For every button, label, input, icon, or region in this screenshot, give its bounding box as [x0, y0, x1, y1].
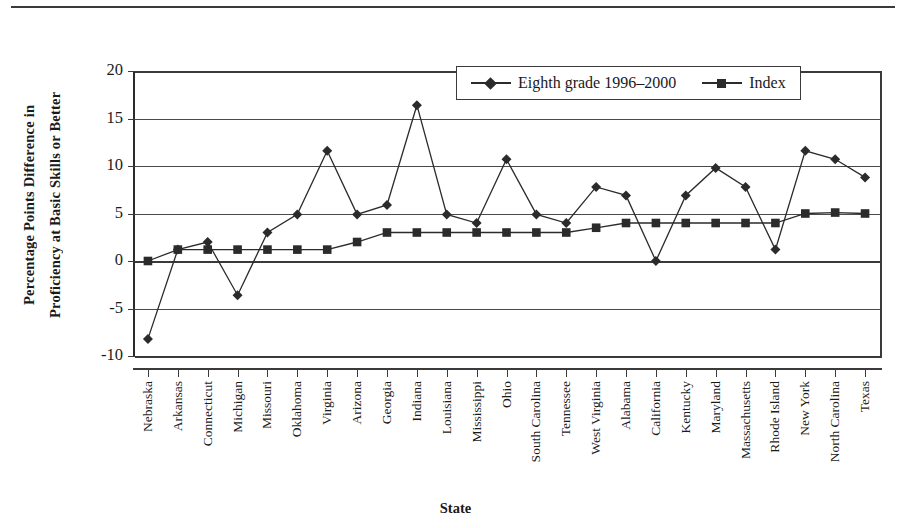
legend-item-eighth-grade: Eighth grade 1996–2000	[471, 74, 676, 92]
x-axis-label-massachusetts: Massachusetts	[739, 381, 753, 459]
chart-legend: Eighth grade 1996–2000 Index	[456, 66, 801, 100]
y-axis-title-line2: Proficiency at Basic Skills or Better	[42, 40, 68, 370]
x-axis-label-virginia: Virginia	[320, 381, 334, 425]
y-axis-tick	[128, 119, 135, 120]
y-axis-tick	[128, 71, 135, 72]
x-axis-title: State	[0, 500, 911, 517]
y-axis-tick-label: 5	[77, 205, 123, 222]
x-axis-tick	[417, 368, 418, 377]
x-axis-label-georgia: Georgia	[380, 381, 394, 424]
x-axis-tick	[327, 368, 328, 377]
x-axis-label-south-carolina: South Carolina	[529, 381, 543, 462]
x-axis-tick	[357, 368, 358, 377]
x-axis-tick	[507, 368, 508, 377]
x-axis-tick	[686, 368, 687, 377]
gridline	[135, 119, 882, 120]
x-axis-tick	[387, 368, 388, 377]
x-axis-label-tennessee: Tennessee	[559, 381, 573, 436]
x-axis-label-north-carolina: North Carolina	[828, 381, 842, 462]
x-axis-label-rhode-island: Rhode Island	[768, 381, 782, 453]
x-axis-label-alabama: Alabama	[619, 381, 633, 430]
x-axis-tick	[746, 368, 747, 377]
x-axis-label-connecticut: Connecticut	[201, 381, 215, 446]
x-axis-tick	[148, 368, 149, 377]
x-axis-tick	[178, 368, 179, 377]
y-axis-title-line1: Percentage Points Difference in	[16, 40, 42, 370]
x-axis-tick	[477, 368, 478, 377]
legend-label-index: Index	[749, 74, 785, 92]
legend-item-index: Index	[702, 74, 785, 92]
y-axis-tick-label: 10	[77, 157, 123, 174]
x-axis-label-indiana: Indiana	[410, 381, 424, 421]
y-axis-title: Percentage Points Difference in Proficie…	[0, 40, 70, 370]
gridline	[135, 214, 882, 215]
y-axis-tick-label: 20	[77, 62, 123, 79]
x-axis-label-west-virginia: West Virginia	[589, 381, 603, 455]
x-axis-tick	[656, 368, 657, 377]
x-axis-tick	[447, 368, 448, 377]
x-axis-label-nebraska: Nebraska	[141, 381, 155, 432]
x-axis-label-arkansas: Arkansas	[171, 381, 185, 431]
x-axis-tick	[566, 368, 567, 377]
x-axis-label-california: California	[649, 381, 663, 436]
x-axis-label-maryland: Maryland	[709, 381, 723, 433]
diamond-marker-icon	[471, 77, 511, 89]
x-axis-tick	[805, 368, 806, 377]
x-axis-tick	[775, 368, 776, 377]
gridline	[135, 309, 882, 310]
x-axis-tick	[596, 368, 597, 377]
x-axis-label-kentucky: Kentucky	[679, 381, 693, 433]
x-axis-label-louisiana: Louisiana	[440, 381, 454, 434]
x-axis-label-mississippi: Mississippi	[470, 381, 484, 443]
x-axis-tick	[536, 368, 537, 377]
y-axis-tick	[128, 214, 135, 215]
x-axis-tick	[297, 368, 298, 377]
x-axis-tick	[208, 368, 209, 377]
y-axis-tick	[128, 309, 135, 310]
x-axis-label-arizona: Arizona	[350, 381, 364, 424]
gridline	[135, 356, 882, 358]
x-axis-label-ohio: Ohio	[500, 381, 514, 408]
y-axis-tick-label: 0	[77, 252, 123, 269]
x-axis-label-new-york: New York	[798, 381, 812, 436]
gridline	[135, 166, 882, 167]
y-axis-tick	[128, 166, 135, 167]
x-axis-tick	[716, 368, 717, 377]
plot-area	[133, 71, 882, 356]
x-axis-label-missouri: Missouri	[260, 381, 274, 429]
x-axis-tick	[835, 368, 836, 377]
gridline	[135, 261, 882, 263]
x-axis-tick	[626, 368, 627, 377]
y-axis-tick	[128, 356, 135, 357]
x-axis-label-oklahoma: Oklahoma	[290, 381, 304, 437]
legend-label-eighth-grade: Eighth grade 1996–2000	[518, 74, 676, 92]
x-axis-label-texas: Texas	[858, 381, 872, 412]
plot-right-edge	[880, 71, 882, 356]
square-marker-icon	[702, 77, 742, 89]
x-axis-tick	[238, 368, 239, 377]
y-axis-tick	[128, 261, 135, 262]
y-axis-tick-label: -10	[77, 347, 123, 364]
chart-figure: Percentage Points Difference in Proficie…	[0, 0, 911, 528]
x-axis-tick	[865, 368, 866, 377]
y-axis-tick-label: -5	[77, 300, 123, 317]
y-axis-tick-label: 15	[77, 110, 123, 127]
x-axis-tick	[267, 368, 268, 377]
x-axis-label-michigan: Michigan	[231, 381, 245, 433]
